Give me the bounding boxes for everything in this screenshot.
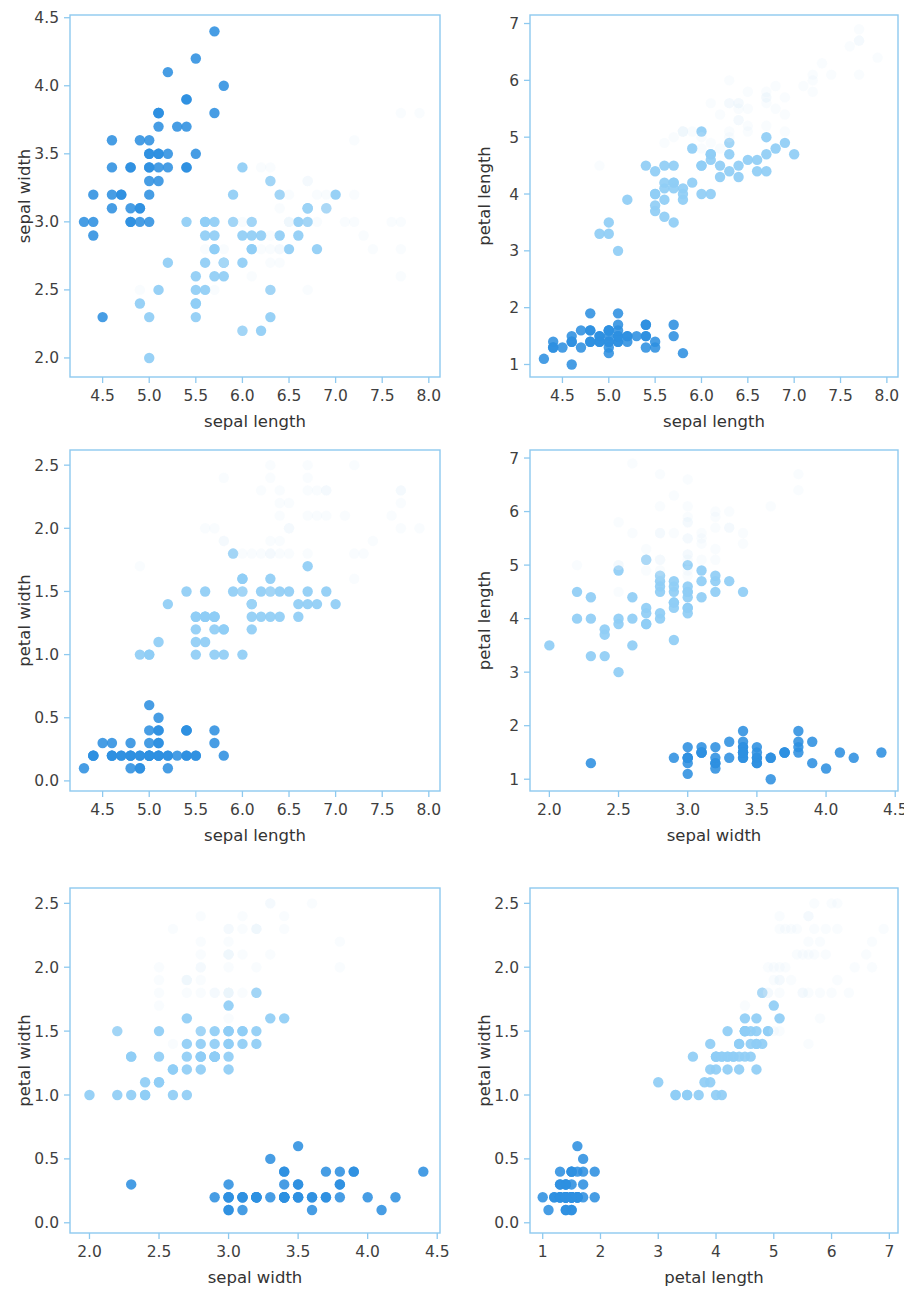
data-point: [396, 217, 406, 227]
data-point: [237, 1026, 247, 1036]
data-point: [766, 774, 776, 784]
data-point: [144, 353, 154, 363]
data-point: [761, 132, 771, 142]
data-point: [237, 326, 247, 336]
data-point: [627, 640, 637, 650]
data-point: [219, 624, 229, 634]
data-point: [414, 523, 424, 533]
data-point: [396, 498, 406, 508]
data-point: [265, 1154, 275, 1164]
data-point: [237, 1039, 247, 1049]
data-point: [256, 612, 266, 622]
data-point: [312, 244, 322, 254]
data-point: [302, 473, 312, 483]
data-point: [722, 1064, 732, 1074]
data-point: [302, 599, 312, 609]
y-tick-label: 6: [509, 503, 519, 521]
data-point: [182, 975, 192, 985]
data-point: [733, 172, 743, 182]
data-point: [153, 738, 163, 748]
data-point: [116, 189, 126, 199]
data-point: [590, 1166, 600, 1176]
data-point: [293, 217, 303, 227]
data-point: [696, 189, 706, 199]
data-point: [209, 1039, 219, 1049]
data-point: [88, 189, 98, 199]
data-point: [734, 1064, 744, 1074]
y-tick-label: 2: [509, 717, 519, 735]
data-point: [191, 649, 201, 659]
data-point: [275, 189, 285, 199]
data-point: [786, 975, 796, 985]
data-point: [655, 608, 665, 618]
data-point: [279, 924, 289, 934]
data-point: [780, 126, 790, 136]
y-tick-label: 6: [509, 72, 519, 90]
data-point: [200, 523, 210, 533]
y-tick-label: 3: [509, 242, 519, 260]
data-point: [688, 1051, 698, 1061]
data-point: [200, 612, 210, 622]
data-point: [265, 162, 275, 172]
data-point: [256, 326, 266, 336]
data-point: [191, 285, 201, 295]
data-point: [107, 750, 117, 760]
data-point: [126, 1090, 136, 1100]
data-point: [293, 230, 303, 240]
data-point: [181, 750, 191, 760]
data-point: [396, 244, 406, 254]
data-point: [163, 763, 173, 773]
data-point: [650, 166, 660, 176]
data-point: [738, 726, 748, 736]
data-point: [572, 613, 582, 623]
data-point: [182, 1013, 192, 1023]
data-point: [368, 536, 378, 546]
data-point: [125, 750, 135, 760]
axes-frame: [70, 888, 440, 1233]
data-point: [659, 138, 669, 148]
data-point: [265, 473, 275, 483]
data-point: [219, 271, 229, 281]
panel-sepal-length-vs-petal-length: 4.55.05.56.06.57.07.58.01234567sepal len…: [474, 9, 904, 441]
data-point: [154, 988, 164, 998]
data-point: [237, 230, 247, 240]
data-point: [256, 244, 266, 254]
data-point: [154, 962, 164, 972]
data-point: [196, 1026, 206, 1036]
data-point: [153, 162, 163, 172]
data-point: [247, 624, 257, 634]
data-point: [724, 75, 734, 85]
data-point: [659, 194, 669, 204]
data-point: [655, 555, 665, 565]
series-virginica: [740, 898, 889, 1049]
data-point: [561, 1179, 571, 1189]
data-point: [724, 132, 734, 142]
data-point: [251, 988, 261, 998]
plot-area: 2.02.53.03.54.04.51234567sepal widthpeta…: [474, 444, 904, 855]
y-tick-label: 2.5: [34, 281, 59, 299]
data-point: [821, 949, 831, 959]
data-point: [163, 149, 173, 159]
data-point: [358, 548, 368, 558]
data-point: [678, 189, 688, 199]
data-point: [191, 149, 201, 159]
plot-area: 4.55.05.56.06.57.07.58.01234567sepal len…: [474, 9, 904, 441]
data-point: [302, 460, 312, 470]
data-point: [275, 498, 285, 508]
data-point: [751, 1013, 761, 1023]
y-tick-label: 4.0: [34, 77, 59, 95]
data-point: [237, 1192, 247, 1202]
data-point: [706, 98, 716, 108]
series-setosa: [586, 726, 887, 785]
series-versicolor: [84, 988, 289, 1101]
data-point: [696, 528, 706, 538]
data-point: [321, 510, 331, 520]
data-point: [275, 244, 285, 254]
data-point: [738, 528, 748, 538]
x-tick-label: 2.0: [77, 1243, 102, 1261]
data-point: [832, 898, 842, 908]
data-point: [223, 1039, 233, 1049]
data-point: [265, 586, 275, 596]
data-point: [655, 528, 665, 538]
y-tick-label: 3.0: [34, 213, 59, 231]
